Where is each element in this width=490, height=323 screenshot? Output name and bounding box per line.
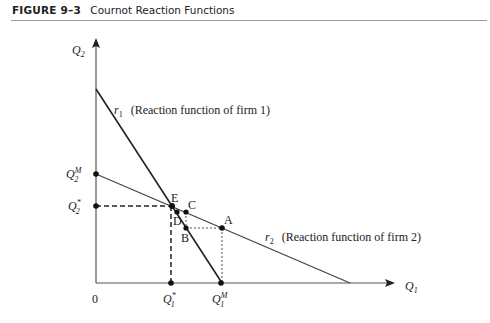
- tick-q2m: QM2: [66, 166, 83, 184]
- point-q1m: [218, 280, 224, 286]
- point-q2star: [93, 203, 99, 209]
- y-axis-label: Q2: [72, 43, 85, 59]
- r2-label: r2(Reaction function of firm 2): [265, 230, 421, 246]
- label-C: C: [188, 198, 196, 212]
- r1-label: r1(Reaction function of firm 1): [114, 103, 270, 119]
- label-A: A: [224, 213, 233, 227]
- tick-q2star: Q*2: [68, 198, 81, 216]
- point-B: [183, 225, 188, 230]
- point-q1star: [168, 280, 174, 286]
- tick-q1m: QM1: [212, 291, 229, 309]
- origin-label: 0: [92, 292, 98, 306]
- cournot-diagram: Q2 Q1 0 r1(Reaction function of firm 1) …: [0, 0, 490, 323]
- label-B: B: [181, 231, 189, 245]
- point-q2m: [93, 171, 99, 177]
- label-E: E: [171, 191, 178, 205]
- x-axis-label: Q1: [405, 279, 418, 295]
- label-D: D: [173, 214, 182, 228]
- r1-line: [96, 89, 222, 283]
- tick-q1star: Q*1: [163, 291, 176, 309]
